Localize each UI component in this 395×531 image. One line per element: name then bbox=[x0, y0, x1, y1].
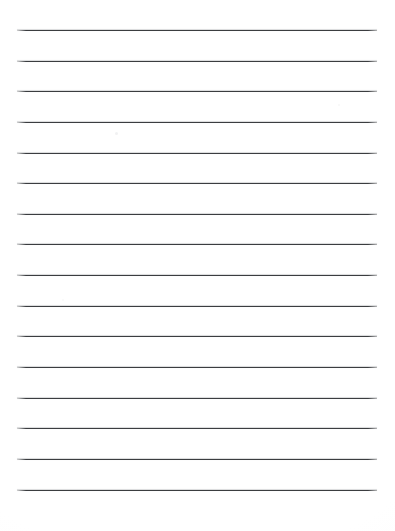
ruled-line bbox=[17, 336, 377, 337]
scan-speck bbox=[338, 104, 340, 106]
scan-speck bbox=[115, 132, 118, 135]
ruled-line bbox=[17, 275, 377, 276]
ruled-line bbox=[17, 153, 377, 154]
ruled-line bbox=[17, 122, 377, 123]
ruled-line bbox=[17, 61, 377, 62]
ruled-line bbox=[17, 214, 377, 215]
ruled-line bbox=[17, 183, 377, 184]
ruled-line bbox=[17, 91, 377, 92]
scan-speck bbox=[62, 299, 64, 301]
ruled-line bbox=[17, 306, 377, 307]
ruled-line bbox=[17, 398, 377, 399]
lined-paper-page bbox=[0, 0, 395, 531]
ruled-line bbox=[17, 367, 377, 368]
ruled-line bbox=[17, 244, 377, 245]
ruled-line bbox=[17, 490, 377, 491]
ruled-line bbox=[17, 30, 377, 31]
ruled-line bbox=[17, 428, 377, 429]
ruled-lines-group bbox=[0, 0, 395, 531]
ruled-line bbox=[17, 459, 377, 460]
